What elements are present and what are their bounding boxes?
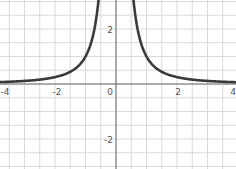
axes xyxy=(0,0,236,169)
y-tick-label: -2 xyxy=(104,135,113,145)
x-tick-label: 0 xyxy=(107,87,113,97)
x-tick-label: 2 xyxy=(175,87,181,97)
y-tick-label: 2 xyxy=(107,25,113,35)
x-tick-label: -2 xyxy=(53,87,62,97)
x-tick-label: -4 xyxy=(1,87,10,97)
x-tick-label: 4 xyxy=(230,87,236,97)
function-plot: -4 -2 0 2 4 2 -2 xyxy=(0,0,236,169)
